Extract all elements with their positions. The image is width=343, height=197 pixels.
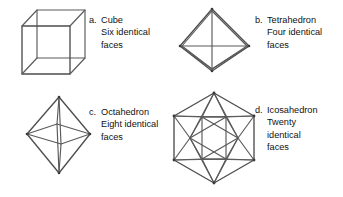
tetrahedron-svg bbox=[178, 6, 252, 74]
cube-desc-line1: Six identical bbox=[89, 26, 150, 38]
icosahedron-desc-line1: Twenty bbox=[255, 116, 318, 128]
icosahedron-desc-line2: identical bbox=[255, 129, 318, 141]
tetrahedron-desc-line2: faces bbox=[255, 39, 322, 51]
cube-label-letter: a. bbox=[89, 14, 97, 26]
tetrahedron-label-letter: b. bbox=[255, 14, 263, 26]
tetrahedron-drawing bbox=[178, 6, 252, 74]
cube-desc-line2: faces bbox=[89, 39, 150, 51]
figure-panel-tetrahedron: b. Tetrahedron Four identical faces bbox=[171, 0, 343, 99]
tetrahedron-desc-line1: Four identical bbox=[255, 26, 322, 38]
octahedron-label-name: Octahedron bbox=[101, 107, 149, 117]
figure-sheet: a. Cube Six identical faces bbox=[0, 0, 343, 197]
octahedron-drawing bbox=[24, 94, 94, 176]
octahedron-label-letter: c. bbox=[89, 106, 96, 118]
icosahedron-caption: d. Icosahedron Twenty identical faces bbox=[255, 104, 318, 154]
cube-drawing bbox=[18, 6, 90, 78]
octahedron-caption: c. Octahedron Eight identical faces bbox=[89, 106, 158, 143]
icosahedron-drawing bbox=[168, 90, 260, 186]
cube-caption: a. Cube Six identical faces bbox=[89, 14, 150, 51]
tetrahedron-label-name: Tetrahedron bbox=[267, 15, 316, 25]
icosahedron-svg bbox=[168, 90, 260, 186]
cube-label-name: Cube bbox=[101, 15, 123, 25]
figure-panel-icosahedron: d. Icosahedron Twenty identical faces bbox=[160, 88, 343, 197]
cube-svg bbox=[18, 6, 90, 78]
octahedron-desc-line2: faces bbox=[89, 131, 158, 143]
figure-panel-cube: a. Cube Six identical faces bbox=[0, 0, 172, 99]
icosahedron-label-name: Icosahedron bbox=[267, 105, 318, 115]
tetrahedron-caption: b. Tetrahedron Four identical faces bbox=[255, 14, 322, 51]
icosahedron-desc-line3: faces bbox=[255, 141, 318, 153]
icosahedron-label-letter: d. bbox=[255, 104, 263, 116]
figure-panel-octahedron: c. Octahedron Eight identical faces bbox=[0, 92, 172, 197]
octahedron-desc-line1: Eight identical bbox=[89, 118, 158, 130]
octahedron-svg bbox=[24, 94, 94, 176]
